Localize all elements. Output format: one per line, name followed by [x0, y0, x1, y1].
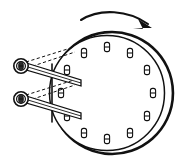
rotation-direction-arrow	[81, 12, 152, 29]
technical-diagram-figure: Rotating drum with bolted rim and twin p…	[0, 0, 175, 162]
drum-inner-circle	[50, 36, 165, 151]
upper-rod-pivot-bolt-icon	[19, 62, 24, 70]
bolt	[127, 128, 132, 137]
bolt	[150, 88, 155, 97]
rotation-arrow-curve	[81, 12, 148, 24]
bolt	[104, 42, 109, 51]
bolt	[64, 65, 69, 74]
bolt	[144, 65, 149, 74]
bolt	[127, 48, 132, 57]
lower-rod-pivot-bolt-icon	[19, 95, 24, 103]
drum-wheel	[50, 32, 173, 154]
bolt	[104, 134, 109, 143]
bolt	[81, 128, 86, 137]
bolt	[81, 48, 86, 57]
bolt	[144, 111, 149, 120]
diagram-canvas	[0, 0, 175, 162]
